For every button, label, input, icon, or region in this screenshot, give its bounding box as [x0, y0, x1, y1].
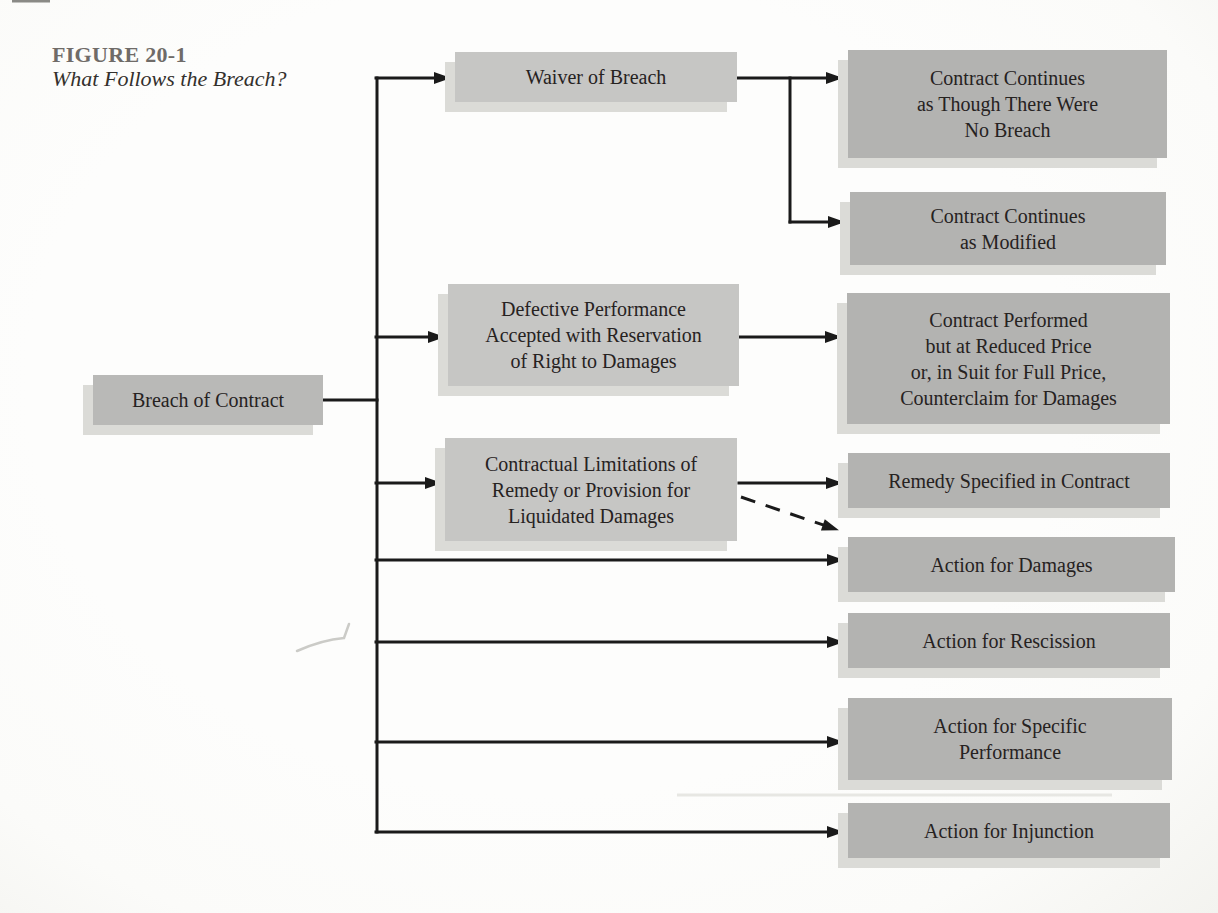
- node-contract-continues-modified: Contract Continues as Modified: [850, 192, 1166, 265]
- node-breach-of-contract: Breach of Contract: [93, 375, 323, 425]
- node-action-for-damages: Action for Damages: [848, 537, 1175, 592]
- edge-contractual-to-damages-dashed: [741, 497, 838, 530]
- node-contract-performed-reduced-price: Contract Performed but at Reduced Price …: [847, 293, 1170, 424]
- node-remedy-specified-in-contract: Remedy Specified in Contract: [848, 453, 1170, 508]
- figure-page: FIGURE 20-1 What Follows the Breach? Bre…: [0, 0, 1218, 913]
- node-action-for-rescission: Action for Rescission: [848, 613, 1170, 668]
- node-waiver-of-breach: Waiver of Breach: [455, 52, 737, 102]
- node-action-for-specific-performance: Action for Specific Performance: [848, 698, 1172, 780]
- node-contractual-limitations: Contractual Limitations of Remedy or Pro…: [445, 438, 737, 541]
- node-action-for-injunction: Action for Injunction: [848, 803, 1170, 858]
- node-contract-continues-no-breach: Contract Continues as Though There Were …: [848, 50, 1167, 158]
- figure-caption: What Follows the Breach?: [52, 66, 286, 92]
- figure-label: FIGURE 20-1: [52, 42, 187, 68]
- node-defective-performance: Defective Performance Accepted with Rese…: [448, 284, 739, 386]
